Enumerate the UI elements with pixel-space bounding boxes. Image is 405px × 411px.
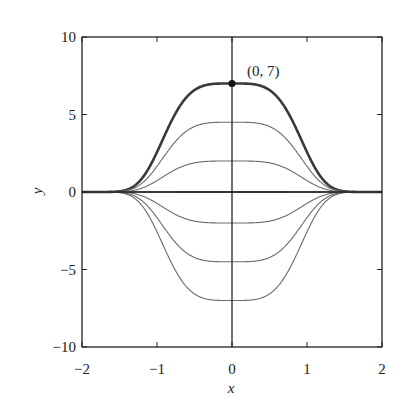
chart: −2−1012−10−50510 x y (0, 7) bbox=[0, 0, 405, 411]
x-tick-label: −1 bbox=[149, 361, 165, 377]
x-tick-label: 1 bbox=[303, 361, 311, 377]
y-tick-label: 10 bbox=[61, 29, 76, 45]
y-tick-label: 0 bbox=[69, 184, 77, 200]
x-tick-label: −2 bbox=[74, 361, 90, 377]
x-axis-label: x bbox=[227, 380, 235, 396]
y-tick-label: 5 bbox=[69, 107, 77, 123]
y-axis-label: y bbox=[29, 187, 45, 196]
point-label: (0, 7) bbox=[247, 63, 280, 80]
x-tick-label: 2 bbox=[378, 361, 386, 377]
x-tick-label: 0 bbox=[228, 361, 236, 377]
y-tick-label: −5 bbox=[60, 262, 76, 278]
point-marker bbox=[228, 80, 235, 87]
tick-labels: −2−1012−10−50510 bbox=[53, 29, 386, 377]
y-tick-label: −10 bbox=[53, 339, 76, 355]
